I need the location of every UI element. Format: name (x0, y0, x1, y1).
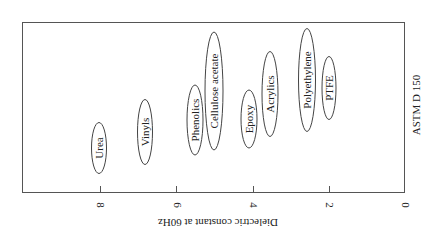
tick-label-4: 4 (248, 202, 260, 208)
x-axis-tick-labels: 8 6 4 2 0 (95, 202, 412, 208)
standard-annotation: ASTM D 150 (410, 74, 422, 135)
label-polyethylene: Polyethylene (301, 51, 313, 109)
label-cellulose-acetate: Cellulose acetate (208, 53, 220, 128)
label-vinyls: Vinyls (139, 118, 151, 147)
tick-label-0: 0 (400, 202, 412, 208)
x-axis-ticks (101, 186, 330, 192)
label-epoxy: Epoxy (243, 104, 255, 133)
x-axis-label: Dielectric constant at 60Hz (158, 217, 278, 229)
label-ptfe: PTFE (323, 75, 335, 101)
tick-label-6: 6 (172, 202, 184, 208)
label-urea: Urea (93, 137, 105, 158)
tick-label-8: 8 (95, 202, 107, 208)
tick-label-2: 2 (324, 202, 336, 208)
label-acrylics: Acrylics (264, 75, 276, 112)
label-phenolics: Phenolics (189, 99, 201, 142)
dielectric-chart: 8 6 4 2 0 Dielectric constant at 60Hz AS… (0, 0, 447, 239)
